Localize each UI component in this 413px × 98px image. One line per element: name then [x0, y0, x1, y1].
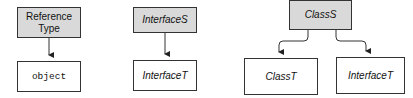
classt-box: ClassT	[244, 58, 318, 95]
interfacet-box-1: InterfaceT	[133, 60, 197, 91]
interfaces-box: InterfaceS	[133, 7, 197, 33]
classt-label: ClassT	[265, 71, 296, 83]
interfacet-label-1: InterfaceT	[142, 70, 187, 82]
object-label: object	[32, 71, 66, 83]
reference-type-label-line1: Reference	[26, 11, 72, 23]
arrow-classs-to-classt	[279, 30, 308, 52]
interfacet-label-2: InterfaceT	[348, 70, 393, 82]
reference-type-box: Reference Type	[17, 7, 81, 38]
reference-type-label-line2: Type	[38, 23, 60, 35]
interfacet-box-2: InterfaceT	[336, 57, 405, 94]
interfaces-label: InterfaceS	[142, 14, 188, 26]
classs-label: ClassS	[305, 9, 337, 21]
arrow-classs-to-interfacet	[336, 30, 366, 51]
classs-box: ClassS	[289, 0, 352, 30]
object-box: object	[17, 61, 81, 92]
